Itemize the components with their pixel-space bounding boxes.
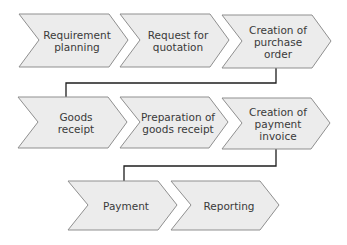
step-label-preparation-of-goods-receipt: Preparation of goods receipt xyxy=(140,97,216,148)
connector-row2-to-row3 xyxy=(124,148,276,181)
step-label-request-for-quotation: Request for quotation xyxy=(140,14,216,67)
step-label-payment: Payment xyxy=(88,181,164,230)
step-label-creation-of-purchase-order: Creation of purchase order xyxy=(242,15,314,68)
step-label-requirement-planning: Requirement planning xyxy=(39,14,115,67)
step-label-reporting: Reporting xyxy=(191,181,267,230)
step-label-creation-of-payment-invoice: Creation of payment invoice xyxy=(246,98,310,149)
connector-row1-to-row2 xyxy=(66,67,276,97)
step-label-goods-receipt: Goods receipt xyxy=(46,97,106,148)
